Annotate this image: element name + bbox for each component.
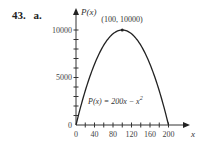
x-tick-label-200: 200	[163, 130, 175, 139]
vertex-label: (100, 10000)	[101, 15, 143, 24]
x-tick-label-0: 0	[74, 130, 78, 139]
y-axis-label: P(x)	[80, 7, 97, 17]
y-tick-label-5000: 5000	[56, 73, 72, 82]
equation-exponent: 2	[140, 95, 143, 101]
vertex-point	[121, 29, 124, 32]
equation-label: P(x) = 200x − x2	[87, 95, 143, 106]
x-tick-label-160: 160	[144, 130, 156, 139]
x-axis-label: x	[190, 129, 195, 139]
y-tick-label-0: 0	[68, 121, 72, 130]
x-tick-label-80: 80	[109, 130, 117, 139]
y-tick-label-10000: 10000	[52, 26, 72, 35]
y-axis-arrow-icon	[73, 8, 79, 15]
parabola-curve	[76, 30, 169, 125]
equation-main: P(x) = 200x − x	[87, 97, 140, 106]
x-tick-label-120: 120	[126, 130, 138, 139]
parabola-chart: P(x) x (100, 10000) P(x) = 200x − x2 100…	[0, 0, 197, 145]
x-tick-label-40: 40	[91, 130, 99, 139]
x-axis-arrow-icon	[183, 122, 190, 128]
